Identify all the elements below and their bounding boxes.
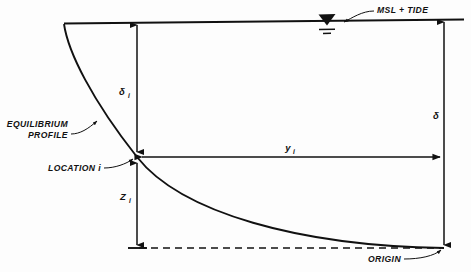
- y-i-label: y i: [284, 142, 295, 155]
- delta-i-subscript: i: [128, 92, 130, 99]
- water-level-triangle-icon: [319, 14, 336, 26]
- delta-i-symbol: δ: [119, 86, 125, 97]
- location-i-label: LOCATION i: [48, 163, 101, 173]
- equilibrium-profile-label-line2: PROFILE: [28, 130, 68, 140]
- mean-sea-level-line: [64, 20, 464, 24]
- diagram-canvas: MSL + TIDE EQUILIBRIUM PROFILE LOCATION …: [0, 0, 471, 272]
- equilibrium-profile-label-line1: EQUILIBRIUM: [7, 119, 69, 129]
- water-surface-symbol: [319, 14, 336, 34]
- msl-tide-label: MSL + TIDE: [377, 5, 428, 15]
- delta-i-label: δ i: [119, 86, 130, 99]
- delta-symbol: δ: [433, 110, 439, 121]
- origin-label: ORIGIN: [368, 254, 401, 264]
- z-i-label: Z i: [119, 191, 131, 204]
- equilibrium-profile-figure: MSL + TIDE EQUILIBRIUM PROFILE LOCATION …: [0, 0, 471, 272]
- delta-label: δ: [433, 110, 439, 121]
- y-i-symbol: y: [284, 142, 291, 153]
- y-i-subscript: i: [293, 148, 295, 155]
- location-i-leader-line: [104, 159, 133, 168]
- equilibrium-profile-curve: [64, 24, 444, 248]
- origin-leader-line: [404, 250, 441, 259]
- equilibrium-profile-leader-line: [71, 121, 97, 134]
- z-i-subscript: i: [129, 197, 131, 204]
- z-i-symbol: Z: [119, 191, 127, 202]
